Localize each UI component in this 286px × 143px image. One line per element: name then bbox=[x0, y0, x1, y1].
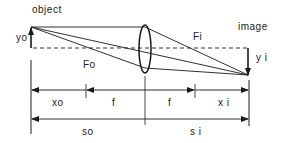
label-si: s i bbox=[190, 127, 202, 137]
label-f-left: f bbox=[112, 98, 115, 108]
label-f-right: f bbox=[168, 98, 171, 108]
ray-chief bbox=[31, 27, 248, 75]
label-yi: y i bbox=[256, 53, 268, 63]
label-image: image bbox=[238, 22, 268, 32]
label-object: object bbox=[32, 5, 62, 15]
label-xi: x i bbox=[218, 98, 230, 108]
label-so: so bbox=[82, 127, 94, 137]
lens bbox=[139, 25, 151, 73]
label-Fo: Fo bbox=[83, 60, 96, 70]
label-xo: xo bbox=[52, 98, 64, 108]
label-yo: yo bbox=[16, 33, 28, 43]
label-Fi: Fi bbox=[193, 32, 202, 42]
